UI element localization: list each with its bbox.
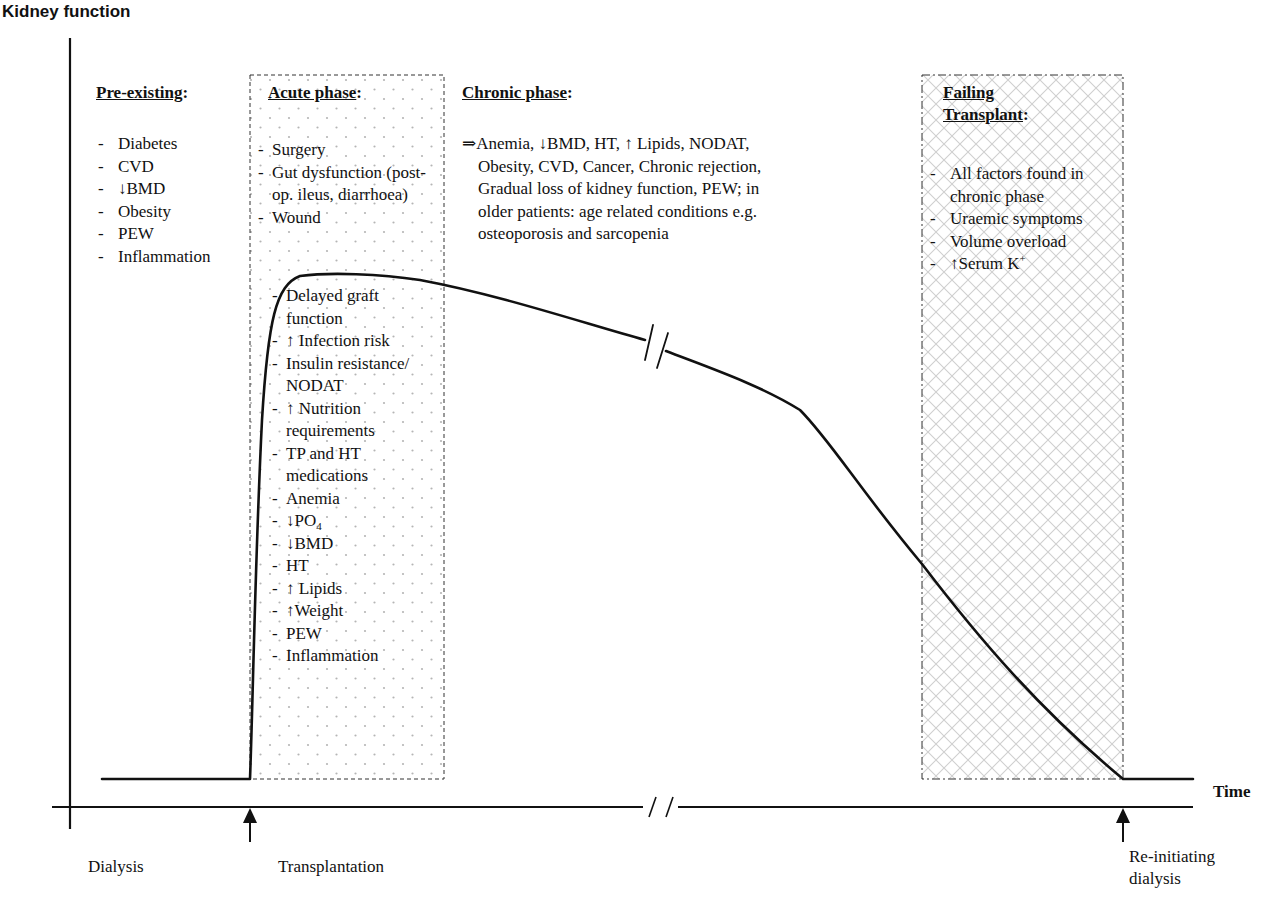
chronic-phase-text: ⇒Anemia, ↓BMD, HT, ↑ Lipids, NODAT, Obes…: [462, 133, 882, 246]
list-item: Delayed graft function: [272, 285, 437, 330]
list-item: Volume overload: [928, 231, 1118, 254]
failing-transplant-list: All factors found in chronic phase Uraem…: [928, 163, 1118, 276]
x-axis: [52, 797, 1193, 817]
list-item: Inflammation: [272, 645, 437, 668]
list-item: ↓BMD: [272, 533, 437, 556]
pre-existing-heading: Pre-existing:: [96, 82, 246, 104]
list-item: Uraemic symptoms: [928, 208, 1118, 231]
y-axis-label: Kidney function: [2, 2, 130, 22]
marker-dialysis-label: Dialysis: [88, 856, 144, 878]
list-item: Insulin resistance/ NODAT: [272, 353, 437, 398]
acute-phase-list-bottom: Delayed graft function ↑ Infection risk …: [272, 285, 437, 668]
failing-transplant-section: Failing Transplant:: [943, 82, 1118, 126]
list-item: CVD: [96, 156, 246, 179]
pre-existing-section: Pre-existing: Diabetes CVD ↓BMD Obesity …: [96, 82, 246, 268]
list-item: ↑Weight: [272, 600, 437, 623]
list-item-serum-k: ↑Serum K+: [928, 253, 1118, 276]
pre-existing-list: Diabetes CVD ↓BMD Obesity PEW Inflammati…: [96, 133, 246, 268]
list-item: ↑ Nutrition requirements: [272, 398, 437, 443]
list-item: ↑ Lipids: [272, 578, 437, 601]
list-item: HT: [272, 555, 437, 578]
x-axis-break-mark: [666, 797, 673, 817]
x-axis-break-mark: [649, 797, 656, 817]
marker-reinitiating-dialysis-label: Re-initiating dialysis: [1129, 846, 1215, 890]
x-axis-label: Time: [1213, 782, 1250, 802]
acute-phase-heading: Acute phase:: [268, 82, 440, 104]
list-item-po4: ↓PO4: [272, 510, 437, 533]
curve-break-mark: [645, 325, 653, 360]
list-item: PEW: [272, 623, 437, 646]
list-item: All factors found in chronic phase: [928, 163, 1118, 208]
list-item: TP and HT medications: [272, 443, 437, 488]
list-item: ↑ Infection risk: [272, 330, 437, 353]
transplantation-arrow: [243, 808, 257, 842]
list-item: Diabetes: [96, 133, 246, 156]
failing-transplant-heading: Failing Transplant:: [943, 82, 1118, 126]
list-item: Anemia: [272, 488, 437, 511]
list-item: Obesity: [96, 201, 246, 224]
list-item: Surgery: [258, 139, 438, 162]
reinitiating-dialysis-arrow: [1116, 808, 1130, 842]
chronic-phase-section: Chronic phase: ⇒Anemia, ↓BMD, HT, ↑ Lipi…: [462, 82, 882, 246]
list-item: Inflammation: [96, 246, 246, 269]
chronic-phase-heading: Chronic phase:: [462, 82, 882, 104]
marker-transplantation-label: Transplantation: [278, 856, 384, 878]
list-item: Wound: [258, 207, 438, 230]
list-item: PEW: [96, 223, 246, 246]
list-item: Gut dysfunction (post-op. ileus, diarrho…: [258, 162, 438, 207]
acute-phase-list-top: Surgery Gut dysfunction (post-op. ileus,…: [258, 139, 438, 229]
list-item: ↓BMD: [96, 178, 246, 201]
acute-phase-section: Acute phase:: [268, 82, 440, 104]
